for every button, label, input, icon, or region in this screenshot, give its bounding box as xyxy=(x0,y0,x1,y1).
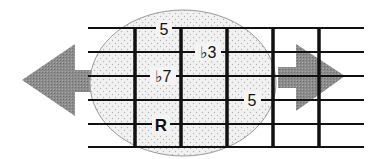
highlight-ellipse xyxy=(90,10,276,156)
svg-text:R: R xyxy=(155,116,167,135)
note-b7-string3: ♭7 xyxy=(150,67,176,85)
left-arrow-icon xyxy=(22,44,92,116)
note-root-string5: R xyxy=(152,115,170,135)
svg-text:5: 5 xyxy=(248,92,257,109)
svg-text:♭3: ♭3 xyxy=(200,44,217,61)
note-b3-string2: ♭3 xyxy=(195,43,221,61)
fretboard-diagram: 5 ♭3 ♭7 5 R xyxy=(0,0,383,159)
svg-text:♭7: ♭7 xyxy=(155,68,172,85)
note-5-string4: 5 xyxy=(244,91,261,109)
note-5-string1: 5 xyxy=(156,20,172,38)
svg-text:5: 5 xyxy=(160,21,169,38)
